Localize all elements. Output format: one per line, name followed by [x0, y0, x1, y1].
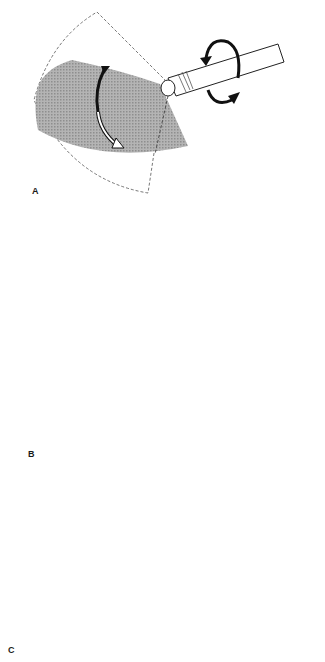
diagram-canvas — [0, 0, 325, 662]
panel-label-a: A — [32, 186, 39, 196]
panel-label-c: C — [8, 645, 15, 655]
panel-a-probe — [161, 44, 284, 96]
panel-label-b: B — [28, 449, 35, 459]
panel-a — [34, 12, 284, 193]
